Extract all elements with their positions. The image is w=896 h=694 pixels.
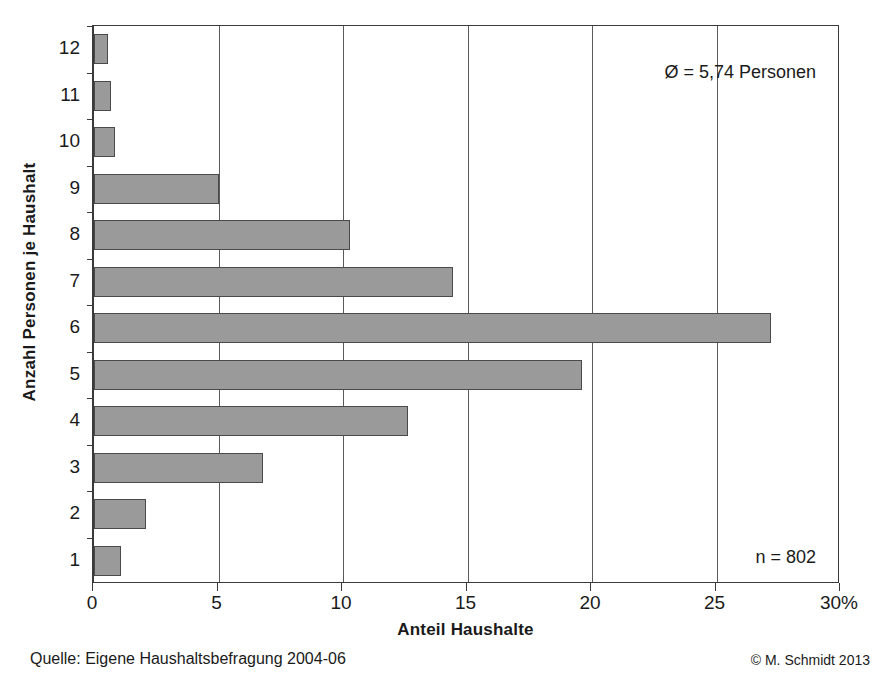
x-axis-tick-label: 20 [579,592,600,614]
copyright-note: © M. Schmidt 2013 [751,652,870,668]
x-axis-tick-label: 5 [211,592,222,614]
x-axis-tick [341,583,342,591]
x-axis-title: Anteil Haushalte [92,620,839,640]
source-note: Quelle: Eigene Haushaltsbefragung 2004-0… [30,650,346,668]
x-axis-tick-label: 15 [455,592,476,614]
x-axis-tick-labels: 051015202530% [0,0,896,694]
chart-figure: Anzahl Personen je Haushalt 123456789101… [0,0,896,694]
x-axis-tick-label: 10 [330,592,351,614]
x-axis-tick [92,583,93,591]
x-axis-tick [590,583,591,591]
x-axis-tick-label: 30% [820,592,858,614]
x-axis-tick [839,583,840,591]
x-axis-tick-label: 0 [87,592,98,614]
x-axis-tick [715,583,716,591]
x-axis-tick [217,583,218,591]
x-axis-tick-label: 25 [704,592,725,614]
x-axis-tick [466,583,467,591]
